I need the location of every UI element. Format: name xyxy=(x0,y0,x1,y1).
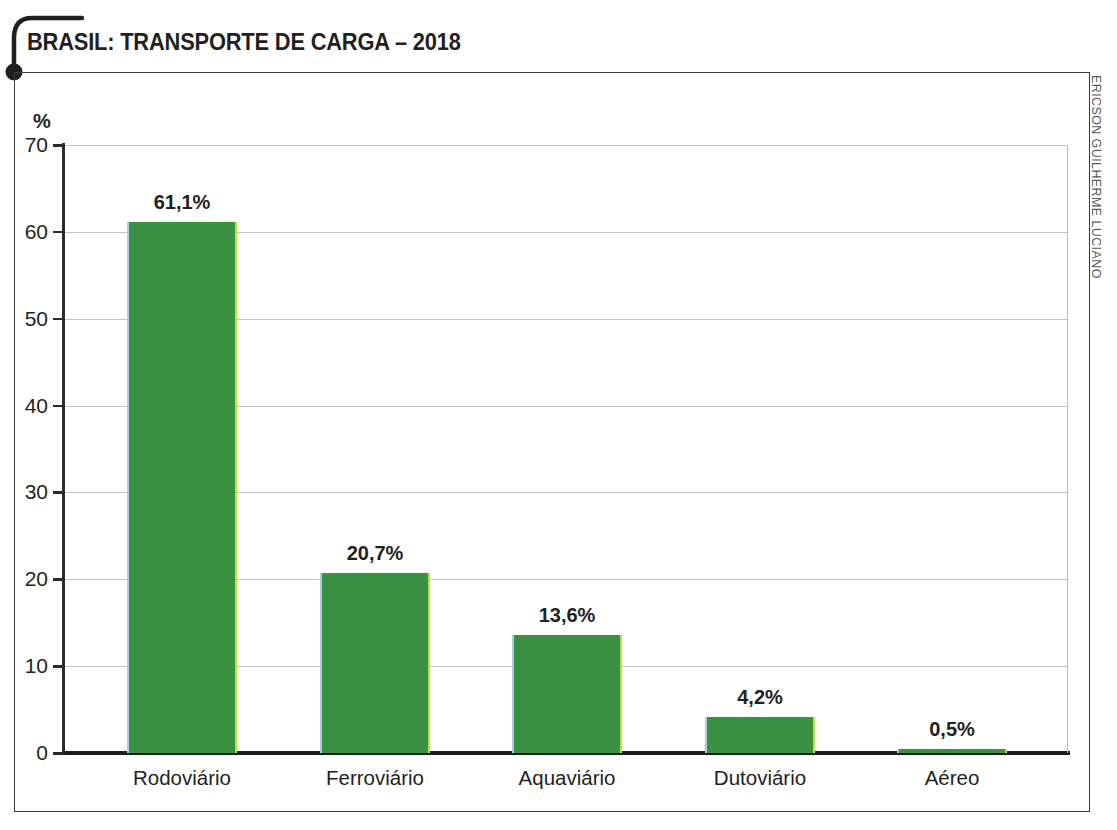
bar-ferroviário[interactable] xyxy=(320,573,430,753)
y-axis-tick-label: 50 xyxy=(0,308,48,329)
y-axis-tick-label: 20 xyxy=(0,568,48,589)
y-axis-tick xyxy=(53,144,65,147)
y-axis-tick-label: 30 xyxy=(0,481,48,502)
bar-value-label: 4,2% xyxy=(665,686,855,709)
gridline xyxy=(63,145,1068,146)
y-axis-tick xyxy=(53,752,65,755)
y-axis-tick-label: 40 xyxy=(0,395,48,416)
bar-rodoviário[interactable] xyxy=(127,222,237,753)
page-title: BRASIL: TRANSPORTE DE CARGA – 2018 xyxy=(27,29,461,56)
y-axis-unit-label: % xyxy=(33,110,51,133)
category-label: Dutoviário xyxy=(655,766,865,790)
credit-text: ERICSON GUILHERME LUCIANO xyxy=(1089,75,1103,279)
bar-aéreo[interactable] xyxy=(897,749,1007,753)
y-axis-tick-label: 0 xyxy=(0,742,48,763)
y-axis-tick-label: 10 xyxy=(0,655,48,676)
category-label: Rodoviário xyxy=(77,766,287,790)
y-axis-tick xyxy=(53,578,65,581)
plot-area xyxy=(63,145,1068,753)
category-label: Aéreo xyxy=(847,766,1057,790)
bar-value-label: 20,7% xyxy=(280,542,470,565)
y-axis-tick xyxy=(53,318,65,321)
chart-page: BRASIL: TRANSPORTE DE CARGA – 2018 % 010… xyxy=(0,0,1117,830)
y-axis-tick-label: 60 xyxy=(0,221,48,242)
y-axis-tick xyxy=(53,231,65,234)
y-axis-tick xyxy=(53,491,65,494)
y-axis-tick xyxy=(53,665,65,668)
y-axis-tick-label: 70 xyxy=(0,134,48,155)
bar-value-label: 61,1% xyxy=(87,191,277,214)
category-label: Ferroviário xyxy=(270,766,480,790)
plot-right-border xyxy=(1067,145,1068,753)
bar-value-label: 0,5% xyxy=(857,718,1047,741)
category-label: Aquaviário xyxy=(462,766,672,790)
y-axis-tick xyxy=(53,405,65,408)
bar-dutoviário[interactable] xyxy=(705,717,815,753)
bar-value-label: 13,6% xyxy=(472,604,662,627)
bar-aquaviário[interactable] xyxy=(512,635,622,753)
